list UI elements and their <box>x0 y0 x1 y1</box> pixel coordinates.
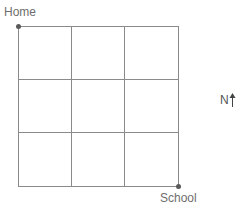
compass: N <box>220 93 236 107</box>
north-arrow-icon <box>229 93 236 107</box>
north-label: N <box>220 93 229 107</box>
home-dot <box>16 24 21 29</box>
home-label: Home <box>4 5 36 19</box>
school-dot <box>176 184 181 189</box>
grid-lines <box>19 27 179 187</box>
grid-map <box>0 0 241 215</box>
school-label: School <box>160 191 197 205</box>
